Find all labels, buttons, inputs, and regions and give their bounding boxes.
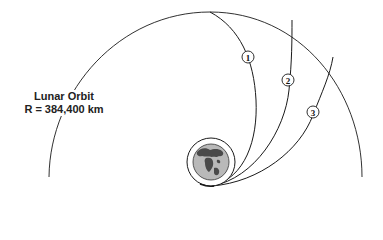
trajectory-1-label: 1 [246, 53, 251, 63]
trajectory-3-marker: 3 [307, 106, 319, 118]
lunar-orbit-title: Lunar Orbit [20, 90, 108, 103]
trajectory-1-marker: 1 [242, 51, 254, 63]
trajectory-3-label: 3 [311, 108, 316, 118]
lunar-orbit-radius: R = 384,400 km [20, 103, 108, 116]
earth-icon [193, 144, 229, 180]
lunar-orbit-label: Lunar Orbit R = 384,400 km [19, 90, 109, 116]
trajectory-2-marker: 2 [282, 74, 294, 86]
trajectory-2-label: 2 [286, 76, 291, 86]
